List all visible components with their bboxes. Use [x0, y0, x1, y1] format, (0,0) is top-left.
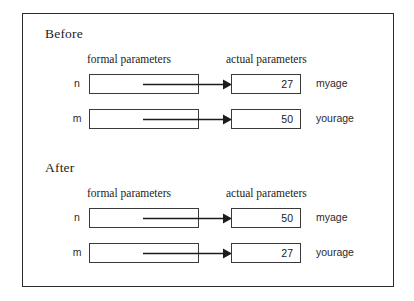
formal-parameter-label: m: [69, 246, 85, 258]
column-headers-after: formal parameters actual parameters: [23, 187, 393, 203]
formal-parameter-label: n: [69, 77, 85, 89]
actual-parameter-value: 50: [281, 213, 293, 224]
actual-parameter-value: 27: [281, 248, 293, 259]
actual-parameter-box: 27: [231, 74, 301, 94]
param-row: n 27 myage: [23, 74, 393, 96]
pointer-arrow-icon: [143, 78, 233, 91]
pointer-arrow-icon: [143, 247, 233, 260]
section-title-before: Before: [45, 26, 83, 42]
actual-parameter-label: yourage: [316, 246, 354, 258]
column-header-actual-parameters: actual parameters: [226, 187, 307, 199]
column-header-formal-parameters: formal parameters: [87, 53, 171, 65]
param-row: m 27 yourage: [23, 243, 393, 265]
section-title-after: After: [45, 160, 74, 176]
actual-parameter-box: 27: [231, 243, 301, 263]
pointer-arrow-icon: [143, 212, 233, 225]
actual-parameter-box: 50: [231, 109, 301, 129]
actual-parameter-box: 50: [231, 208, 301, 228]
actual-parameter-value: 27: [281, 79, 293, 90]
pointer-arrow-icon: [143, 113, 233, 126]
actual-parameter-label: myage: [316, 211, 348, 223]
column-header-formal-parameters: formal parameters: [87, 187, 171, 199]
actual-parameter-label: myage: [316, 77, 348, 89]
figure-frame: Before formal parameters actual paramete…: [22, 13, 394, 287]
column-headers-before: formal parameters actual parameters: [23, 53, 393, 69]
param-row: m 50 yourage: [23, 109, 393, 131]
param-row: n 50 myage: [23, 208, 393, 230]
formal-parameter-label: n: [69, 211, 85, 223]
formal-parameter-label: m: [69, 112, 85, 124]
column-header-actual-parameters: actual parameters: [226, 53, 307, 65]
actual-parameter-label: yourage: [316, 112, 354, 124]
actual-parameter-value: 50: [281, 114, 293, 125]
